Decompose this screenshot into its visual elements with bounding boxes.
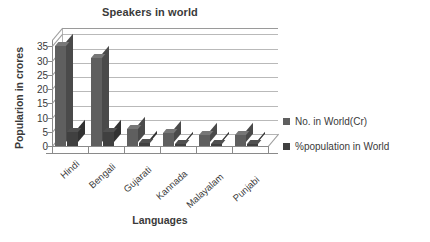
bar-front-face: [55, 46, 66, 146]
y-axis-tick-mark: [46, 103, 52, 104]
y-axis-tick-label: 10: [28, 112, 48, 123]
y-axis-tick-label: 5: [28, 126, 48, 137]
x-axis-tick-mark: [124, 146, 125, 153]
y-axis-tick-mark: [46, 75, 52, 76]
bar: [247, 140, 258, 146]
bar: [175, 140, 186, 146]
bar: [91, 54, 102, 146]
y-axis-tick-mark: [46, 132, 52, 133]
bar-front-face: [67, 132, 78, 146]
bar-front-face: [235, 135, 246, 146]
bar: [211, 140, 222, 146]
bar-front-face: [211, 144, 222, 146]
y-axis-tick-label: 15: [28, 98, 48, 109]
chart-legend: No. in World(Cr)%population in World: [283, 116, 389, 166]
bar-front-face: [127, 129, 138, 146]
y-axis-tick-mark: [46, 118, 52, 119]
bar-front-face: [103, 132, 114, 146]
y-axis-tick-mark: [46, 46, 52, 47]
x-axis-outer-line: [46, 153, 278, 154]
bar: [103, 128, 114, 146]
bar-front-face: [247, 144, 258, 146]
bar-front-face: [139, 143, 150, 146]
bar: [235, 131, 246, 146]
x-axis-tick-mark: [52, 146, 53, 153]
y-axis-title: Popularion in crores: [13, 38, 25, 158]
y-axis-tick-label: 35: [28, 41, 48, 52]
y-axis-tick-label: 20: [28, 84, 48, 95]
y-axis-tick-label: 0: [28, 141, 48, 152]
gridline: [62, 34, 278, 35]
bar: [139, 139, 150, 146]
x-axis-tick-mark: [196, 146, 197, 153]
gridline: [62, 28, 278, 29]
legend-label: %population in World: [295, 141, 389, 152]
legend-swatch-icon: [283, 143, 290, 150]
y-axis-tick-mark: [46, 89, 52, 90]
bar: [199, 131, 210, 146]
x-axis-tick-mark: [88, 146, 89, 153]
y-axis-tick-label: 30: [28, 55, 48, 66]
x-axis-tick-mark: [268, 146, 269, 153]
bar: [55, 42, 66, 146]
bar: [127, 125, 138, 146]
bar-front-face: [199, 135, 210, 146]
gridline: [62, 49, 278, 50]
x-axis-tick-mark: [160, 146, 161, 153]
bar-chart: Speakers in world 05101520253035 HindiBe…: [0, 0, 430, 242]
legend-label: No. in World(Cr): [295, 116, 367, 127]
bar-front-face: [91, 58, 102, 146]
floor-right-edge: [268, 134, 279, 147]
x-axis-title: Languages: [52, 214, 268, 226]
x-axis-tick-mark: [232, 146, 233, 153]
legend-item: No. in World(Cr): [283, 116, 389, 127]
bar: [163, 129, 174, 146]
bar-side-face: [66, 34, 73, 142]
y-axis-tick-label: 25: [28, 69, 48, 80]
bar-front-face: [175, 144, 186, 146]
bar: [67, 128, 78, 146]
y-axis-tick-mark: [46, 61, 52, 62]
legend-item: %population in World: [283, 141, 389, 152]
legend-swatch-icon: [283, 118, 290, 125]
bar-front-face: [163, 133, 174, 146]
